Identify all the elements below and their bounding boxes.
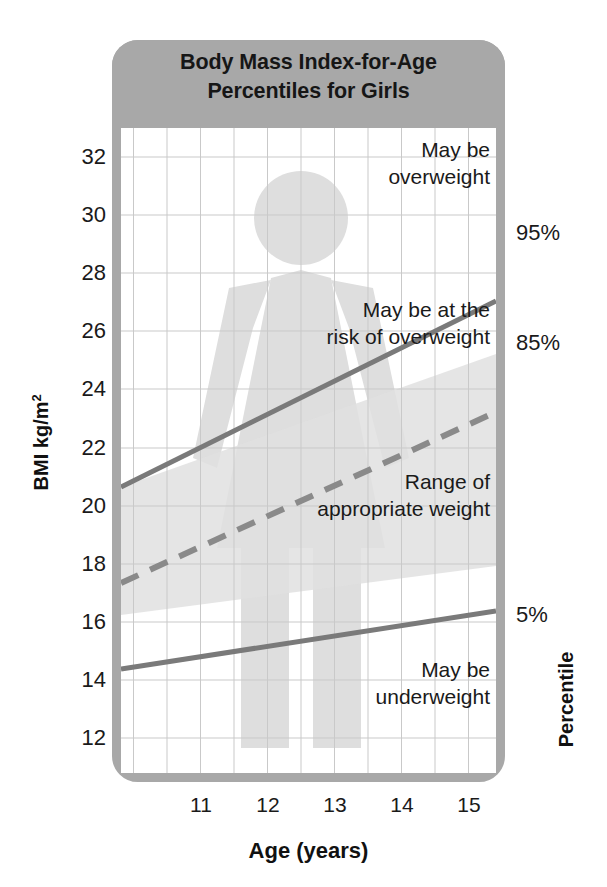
y-tick-20: 20 — [46, 493, 106, 519]
right-axis-title: Percentile — [555, 620, 578, 780]
percentile-label-85: 85% — [516, 330, 560, 356]
chart-title: Body Mass Index-for-Age Percentiles for … — [112, 48, 505, 106]
y-tick-16: 16 — [46, 609, 106, 635]
annotation-overweight: May be overweight — [388, 136, 490, 190]
percentile-label-95: 95% — [516, 220, 560, 246]
x-axis-title: Age (years) — [112, 838, 505, 864]
x-tick-14: 14 — [372, 793, 432, 817]
y-tick-18: 18 — [46, 551, 106, 577]
annotation-risk-of-overweight: May be at the risk of overweight — [327, 296, 490, 350]
x-tick-13: 13 — [305, 793, 365, 817]
y-tick-14: 14 — [46, 667, 106, 693]
percentile-label-5: 5% — [516, 602, 548, 628]
y-tick-32: 32 — [46, 144, 106, 170]
plot-area: May be overweight May be at the risk of … — [121, 128, 496, 773]
y-tick-30: 30 — [46, 202, 106, 228]
y-tick-28: 28 — [46, 260, 106, 286]
x-tick-11: 11 — [171, 793, 231, 817]
y-tick-26: 26 — [46, 318, 106, 344]
annotation-appropriate-weight: Range of appropriate weight — [317, 468, 490, 522]
x-tick-12: 12 — [238, 793, 298, 817]
x-tick-15: 15 — [439, 793, 499, 817]
bmi-chart-figure: Body Mass Index-for-Age Percentiles for … — [0, 0, 607, 887]
y-axis-title: BMI kg/m2 — [29, 357, 54, 527]
y-tick-24: 24 — [46, 376, 106, 402]
y-axis-title-text: BMI kg/m — [30, 402, 52, 491]
y-tick-22: 22 — [46, 435, 106, 461]
y-axis-title-exponent: 2 — [29, 394, 44, 401]
y-tick-12: 12 — [46, 725, 106, 751]
annotation-underweight: May be underweight — [376, 656, 490, 710]
